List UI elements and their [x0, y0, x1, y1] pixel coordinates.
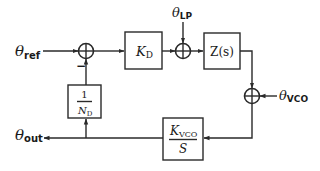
theta-out-symbol: θ	[15, 126, 24, 144]
minus-sign: −	[76, 59, 86, 73]
theta-ref-subscript: ref	[24, 50, 41, 61]
divider-block: 1 ND	[68, 85, 101, 118]
kvco-block: KVCO S	[163, 118, 203, 160]
kd-block: KD	[125, 32, 162, 69]
zs-block: Z(s)	[204, 33, 240, 69]
kvco-num-sub: VCO	[178, 130, 198, 139]
theta-ref-symbol: θ	[15, 42, 24, 60]
theta-out-output: θout	[15, 126, 43, 144]
theta-lp-subscript: LP	[180, 11, 193, 21]
svg-text:θLP: θLP	[172, 5, 193, 21]
svg-text:θout: θout	[15, 126, 43, 144]
sum-vco-noise	[245, 89, 260, 104]
svg-text:θVCO: θVCO	[279, 88, 308, 104]
theta-vco-input: θVCO	[260, 88, 308, 104]
svg-text:θref: θref	[15, 42, 41, 61]
divider-den-sub: D	[87, 110, 93, 118]
divider-num: 1	[81, 89, 87, 100]
pll-block-diagram: θref − KD θLP Z(s)	[0, 0, 320, 171]
theta-ref-input: θref	[15, 42, 78, 61]
sum-phase-detector: −	[76, 44, 94, 74]
wire-zs-to-sum3	[240, 51, 252, 88]
theta-vco-subscript: VCO	[287, 94, 309, 104]
sum-loop-filter-noise	[176, 44, 191, 59]
theta-out-subscript: out	[24, 133, 43, 144]
theta-lp-symbol: θ	[172, 5, 180, 20]
kvco-den: S	[179, 142, 187, 156]
zs-label: Z(s)	[210, 45, 234, 59]
kd-sub: D	[146, 50, 153, 60]
theta-vco-symbol: θ	[279, 88, 287, 103]
theta-lp-input: θLP	[172, 5, 193, 43]
wire-sum3-to-kvco	[204, 104, 252, 139]
